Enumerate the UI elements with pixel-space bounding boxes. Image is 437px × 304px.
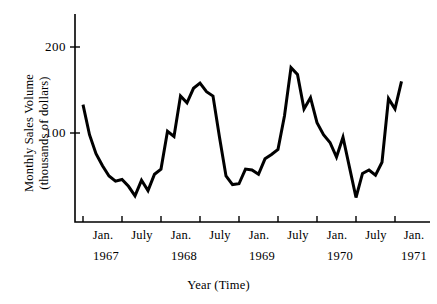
x-year-label-1970: 1970 [318,249,362,264]
y-axis-title: Monthly Sales Volume (thousands of dolla… [22,38,52,228]
x-axis-tick-marks [83,216,395,222]
x-tick-label-july-1967: July [122,228,162,243]
x-year-label-1967: 1967 [84,249,128,264]
x-tick-label-july-1969: July [278,228,318,243]
line-chart-figure: 200 100 Monthly Sales Volume (thousands … [0,0,437,304]
x-year-label-1968: 1968 [162,249,206,264]
x-tick-label-jan-1971: Jan. [394,228,434,243]
x-axis-title-text: Year (Time) [187,278,250,293]
x-tick-label-jan-1970: Jan. [317,228,357,243]
data-series-line [83,68,402,198]
x-tick-label-jan-1967: Jan. [83,228,123,243]
x-tick-label-july-1968: July [200,228,240,243]
x-tick-label-jan-1968: Jan. [161,228,201,243]
x-year-label-1969: 1969 [240,249,284,264]
y-axis-title-line2: (thousands of dollars) [37,38,52,228]
y-axis-title-line1: Monthly Sales Volume [22,38,37,228]
x-axis-title: Year (Time) [0,278,437,293]
chart-axes [75,14,430,222]
x-year-label-1971: 1971 [392,249,436,264]
x-tick-label-july-1970: July [356,228,396,243]
x-tick-label-jan-1969: Jan. [239,228,279,243]
